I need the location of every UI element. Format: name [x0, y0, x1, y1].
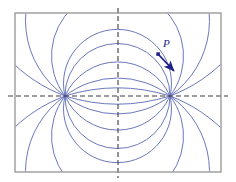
dipole-field-figure: P	[0, 0, 236, 182]
field-line-diagram	[0, 0, 236, 182]
point-label-p: P	[163, 38, 170, 49]
point-marker-p	[156, 52, 160, 56]
